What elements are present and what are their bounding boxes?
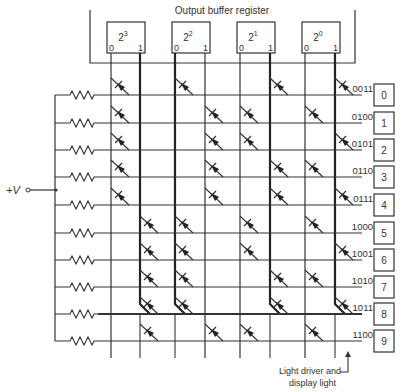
resistor-icon [55,283,98,291]
display-digit: 0 [381,90,387,101]
display-digit: 9 [381,336,387,347]
svg-text:1: 1 [203,43,208,53]
resistor-icon [55,310,98,318]
svg-text:0: 0 [109,43,114,53]
display-digit: 1 [381,118,387,129]
row-code: 1001 [352,248,373,259]
row-code: 0101 [352,138,373,149]
resistor-icon [55,229,98,237]
display-digit: 5 [381,228,387,239]
supply-label: +V [6,184,21,196]
diode-icon [270,160,288,177]
diode-icon [111,133,129,150]
resistor-icon [55,119,98,127]
diode-icon [305,270,323,287]
diode-icon [175,216,193,233]
diode-icon [305,106,323,123]
diode-icon [175,270,193,287]
diode-icon [240,324,258,341]
row-code: 0011 [353,83,373,94]
decoder-diagram: Output buffer register 2301220121012001 … [0,0,402,392]
resistor-icon [55,201,98,209]
resistor-icon [55,91,98,99]
row-code: 1000 [352,221,373,232]
svg-text:1: 1 [138,43,143,53]
resistor-icon [55,256,98,264]
row-code: 0111 [353,193,373,204]
diode-icon [240,243,258,260]
display-digit: 2 [381,145,387,156]
diode-icon [240,106,258,123]
display-digit: 7 [381,282,387,293]
diode-icon [111,160,129,177]
diode-icon [140,324,158,341]
diode-icon [270,270,288,287]
footnote-line-1: Light driver and [279,366,341,376]
row-code: 1010 [352,275,373,286]
svg-text:1: 1 [333,43,338,53]
row-code: 0100 [352,111,373,122]
display-digit: 8 [381,309,387,320]
diode-icon [205,106,223,123]
diode-icon [175,78,193,95]
display-digit: 4 [381,200,387,211]
register-bit-3: 2301 [107,22,145,53]
diode-icon [205,324,223,341]
row-code: 1100 [353,329,373,340]
register-bit-0: 2001 [302,22,340,53]
resistor-icon [55,146,98,154]
diode-icon [335,243,353,260]
diode-icon [270,188,288,205]
diode-icon [111,78,129,95]
resistor-icon [55,173,98,181]
diode-icon [240,133,258,150]
row-code: 1011 [353,302,373,313]
diode-icon [111,188,129,205]
diode-icon [140,216,158,233]
diode-icon [140,270,158,287]
svg-text:1: 1 [268,43,273,53]
diode-icon [205,188,223,205]
register-bit-1: 2101 [237,22,275,53]
diode-icon [335,133,353,150]
diode-icon [305,324,323,341]
diode-icon [335,188,353,205]
footnote-line-2: display light [289,378,337,388]
diode-icon [111,106,129,123]
diode-icon [175,243,193,260]
diode-icon [305,216,323,233]
register-bit-2: 2201 [172,22,210,53]
svg-text:0: 0 [239,43,244,53]
diode-icon [305,160,323,177]
diode-icon [140,243,158,260]
diode-icon [205,160,223,177]
display-digit: 3 [381,172,387,183]
display-digit: 6 [381,255,387,266]
svg-text:0: 0 [304,43,309,53]
diode-icon [205,133,223,150]
register-title: Output buffer register [175,5,270,16]
arrow-icon [345,351,351,357]
diode-icon [335,78,353,95]
diode-icon [240,216,258,233]
diode-icon [270,78,288,95]
resistor-icon [55,337,98,345]
svg-text:0: 0 [174,43,179,53]
row-code: 0110 [353,165,373,176]
